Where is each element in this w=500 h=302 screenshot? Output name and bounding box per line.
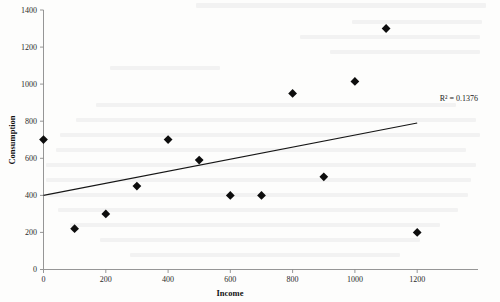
- data-point[interactable]: [195, 156, 204, 165]
- x-tick-label: 800: [287, 275, 299, 284]
- y-axis-tick-labels: 0 200 400 600 800 1000 1200 1400: [21, 6, 37, 274]
- data-point[interactable]: [288, 89, 297, 98]
- data-point[interactable]: [226, 191, 235, 200]
- x-axis-title: Income: [217, 288, 244, 298]
- trendline: [44, 123, 418, 195]
- y-tick-label: 200: [25, 228, 37, 237]
- x-axis-ticks: [44, 270, 418, 274]
- data-point[interactable]: [133, 182, 142, 191]
- x-tick-label: 0: [42, 275, 46, 284]
- y-tick-label: 600: [25, 154, 37, 163]
- data-point[interactable]: [413, 228, 422, 237]
- y-tick-label: 800: [25, 117, 37, 126]
- data-point[interactable]: [101, 210, 110, 219]
- data-points: [39, 24, 421, 237]
- y-tick-label: 1400: [21, 6, 37, 15]
- x-tick-label: 200: [100, 275, 112, 284]
- y-tick-label: 0: [33, 265, 37, 274]
- chart-figure: 0 200 400 600 800 1000 1200 1400 0 200 4…: [0, 0, 500, 302]
- x-tick-label: 1200: [409, 275, 425, 284]
- data-point[interactable]: [164, 135, 173, 144]
- y-tick-label: 400: [25, 191, 37, 200]
- x-tick-label: 1000: [347, 275, 363, 284]
- data-point[interactable]: [382, 24, 391, 33]
- y-axis-title: Consumption: [7, 115, 17, 164]
- data-point[interactable]: [70, 224, 79, 233]
- y-tick-label: 1000: [21, 80, 37, 89]
- data-point[interactable]: [351, 77, 360, 86]
- r-squared-annotation: R² = 0.1376: [440, 94, 478, 103]
- data-point[interactable]: [39, 135, 48, 144]
- scatter-plot: 0 200 400 600 800 1000 1200 1400 0 200 4…: [0, 0, 500, 302]
- x-tick-label: 400: [162, 275, 174, 284]
- data-point[interactable]: [257, 191, 266, 200]
- x-axis-tick-labels: 0 200 400 600 800 1000 1200: [42, 275, 426, 284]
- y-tick-label: 1200: [21, 43, 37, 52]
- x-tick-label: 600: [224, 275, 236, 284]
- data-point[interactable]: [319, 172, 328, 181]
